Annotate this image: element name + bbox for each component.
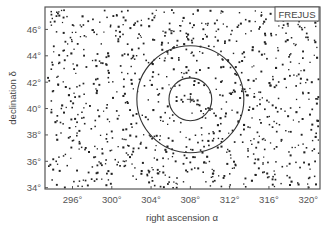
x-tick-label: 296° bbox=[63, 194, 83, 205]
y-tick-label: 42° bbox=[27, 77, 42, 88]
event-points bbox=[47, 9, 319, 188]
y-tick-label: 36° bbox=[27, 156, 42, 167]
x-tick-label: 308° bbox=[181, 194, 201, 205]
y-tick-label: 40° bbox=[27, 103, 42, 114]
scatter-chart: 296°300°304°308°312°316°320° 34°36°38°40… bbox=[0, 0, 329, 226]
x-tick-label: 320° bbox=[298, 194, 318, 205]
source-plus-marker bbox=[187, 96, 194, 103]
x-axis-title: right ascension α bbox=[146, 212, 219, 223]
x-tick-label: 300° bbox=[102, 194, 122, 205]
x-tick-label: 304° bbox=[141, 194, 161, 205]
x-tick-label: 312° bbox=[220, 194, 240, 205]
x-tick-label: 316° bbox=[259, 194, 279, 205]
y-axis-title: declination δ bbox=[7, 71, 18, 124]
legend: FREJUS bbox=[275, 7, 319, 21]
y-tick-label: 46° bbox=[27, 24, 42, 35]
y-tick-label: 38° bbox=[27, 129, 42, 140]
legend-label: FREJUS bbox=[279, 9, 316, 20]
y-tick-label: 34° bbox=[27, 182, 42, 193]
y-tick-label: 44° bbox=[27, 50, 42, 61]
